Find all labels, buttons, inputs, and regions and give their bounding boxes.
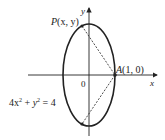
equation-label: 4x2 + y2 = 4 (9, 97, 56, 108)
ellipse-diagram: y x 0 P(x, y) A(1, 0) 4x2 + y2 = 4 (0, 0, 165, 140)
x-axis-label: x (149, 78, 154, 88)
point-P (80, 24, 83, 27)
y-axis-label: y (80, 6, 85, 16)
segment-PA (82, 26, 115, 75)
origin-label: 0 (81, 79, 86, 89)
point-lower (80, 122, 83, 125)
point-P-label: P(x, y) (50, 16, 79, 28)
point-A-label: A(1, 0) (115, 64, 144, 76)
segment-A-lower (82, 75, 115, 124)
